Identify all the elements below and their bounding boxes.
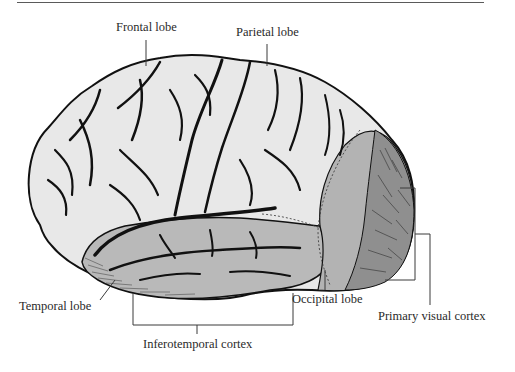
- label-parietal-lobe: Parietal lobe: [236, 26, 299, 39]
- temporal-lobe-shaded: [82, 217, 330, 298]
- label-temporal-lobe: Temporal lobe: [19, 300, 91, 313]
- label-primary-visual-cortex: Primary visual cortex: [378, 310, 486, 323]
- label-frontal-lobe: Frontal lobe: [116, 21, 177, 34]
- label-occipital-lobe: Occipital lobe: [292, 293, 362, 306]
- label-inferotemporal-cortex: Inferotemporal cortex: [143, 338, 252, 351]
